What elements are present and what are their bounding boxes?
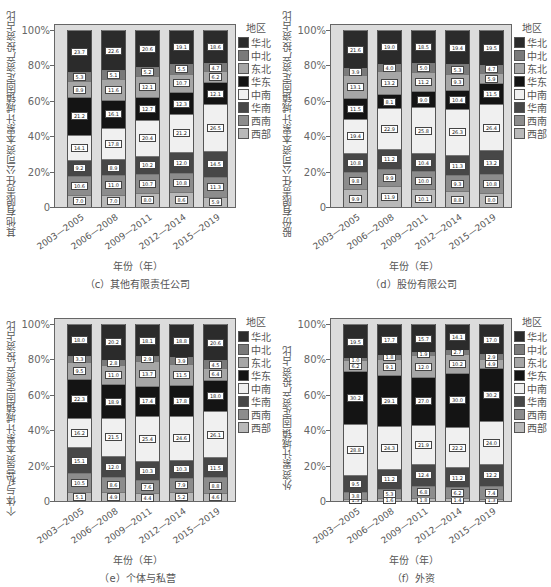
bar-segment-东北: 9.3 <box>446 74 469 90</box>
bar-segment-华北: 17.0 <box>480 324 503 354</box>
bar-segment-东北: 13.7 <box>136 361 159 385</box>
data-label: 4.6 <box>209 493 223 501</box>
bar-segment-华南: 12.0 <box>102 456 125 477</box>
bar-segment-华东: 11.5 <box>344 98 367 118</box>
y-tick-label: 100% <box>296 319 326 330</box>
plot-area: 1.33.89.528.830.26.21.019.51.65.311.224.… <box>330 318 512 502</box>
bar-segment-华南: 13.2 <box>480 150 503 173</box>
y-tick-label: 100% <box>20 25 50 36</box>
data-label: 10.8 <box>347 159 364 167</box>
bar-segment-华南: 10.3 <box>136 461 159 479</box>
data-label: 30.2 <box>483 391 500 399</box>
legend-swatch <box>238 344 249 355</box>
bar-segment-西部: 10.1 <box>412 189 435 207</box>
bar-segment-西南: 7.6 <box>136 480 159 493</box>
data-label: 10.5 <box>71 479 88 487</box>
bar-segment-西部: 7.0 <box>102 195 125 207</box>
data-label: 11.0 <box>105 181 122 189</box>
data-label: 9.8 <box>349 177 363 185</box>
bar-segment-中北: 1.8 <box>378 355 401 358</box>
bar-segment-西南: 10.8 <box>480 174 503 193</box>
legend-swatch <box>238 115 249 126</box>
bar-segment-西部: 11.9 <box>378 186 401 207</box>
bar-segment-中北: 2.9 <box>480 354 503 359</box>
legend-title: 地区 <box>246 20 271 35</box>
chart-panel-d: 股份有限责任公司资本累计城镇固定资产投资占比9.99.810.819.411.5… <box>276 0 551 293</box>
legend: 地区华北中北东北华东中南华南西南西部 <box>238 20 271 140</box>
bar-segment-中北: 3.9 <box>344 68 367 75</box>
bar-segment-西部: 1.8 <box>412 498 435 501</box>
data-label: 12.4 <box>415 471 432 479</box>
data-label: 8.0 <box>485 196 499 204</box>
bar-segment-东北: 11.5 <box>170 364 193 384</box>
data-label: 10.3 <box>173 465 190 473</box>
y-tick-label: 60% <box>296 95 326 106</box>
data-label: 22.2 <box>449 444 466 452</box>
stacked-bar: 4.98.612.021.518.911.02.820.2 <box>101 324 126 501</box>
data-label: 5.3 <box>451 66 465 74</box>
data-label: 5.3 <box>73 73 87 81</box>
bar-segment-华东: 22.3 <box>68 379 91 418</box>
plot-area: 7.010.69.214.121.28.95.323.77.011.08.917… <box>54 24 236 208</box>
bar-segment-华东: 18.0 <box>204 380 227 412</box>
bar-segment-华东: 10.4 <box>446 90 469 108</box>
bar-segment-中北: 5.3 <box>446 64 469 73</box>
stacked-bar: 7.010.69.214.121.28.95.323.7 <box>67 30 92 207</box>
data-label: 10.8 <box>173 179 190 187</box>
data-label: 19.0 <box>381 43 398 51</box>
y-tick-mark <box>50 466 54 467</box>
bar-segment-中南: 25.4 <box>136 416 159 461</box>
bar-segment-中南: 26.4 <box>480 104 503 151</box>
bar-segment-西部: 8.8 <box>446 191 469 207</box>
legend-swatch <box>514 422 525 433</box>
bar-segment-东北: 10.2 <box>446 354 469 372</box>
data-label: 3.8 <box>349 492 363 500</box>
bar-segment-东北: 6.2 <box>204 71 227 82</box>
data-label: 18.1 <box>139 337 156 345</box>
bar-segment-东北: 9.5 <box>68 362 91 379</box>
data-label: 18.6 <box>207 43 224 51</box>
y-tick-label: 40% <box>20 425 50 436</box>
data-label: 12.0 <box>415 363 432 371</box>
bar-segment-西部: 8.0 <box>136 193 159 207</box>
data-label: 18.5 <box>415 43 432 51</box>
y-tick-label: 20% <box>20 460 50 471</box>
bar-segment-西南: 3.8 <box>344 492 367 499</box>
data-label: 10.2 <box>449 360 466 368</box>
legend-swatch <box>514 128 525 139</box>
y-tick-mark <box>50 430 54 431</box>
stacked-bar: 5.110.515.116.222.39.53.318.0 <box>67 324 92 501</box>
bar-segment-中北: 5.5 <box>170 64 193 74</box>
data-label: 11.2 <box>381 475 398 483</box>
data-label: 6.8 <box>417 488 431 496</box>
data-label: 8.6 <box>175 196 189 204</box>
bar-segment-中北: 1.9 <box>412 352 435 355</box>
legend-swatch <box>238 422 249 433</box>
y-tick-mark <box>326 30 330 31</box>
stacked-bar: 5.911.314.526.512.16.24.718.6 <box>203 30 228 207</box>
bar-segment-华东: 21.2 <box>68 97 91 135</box>
data-label: 7.0 <box>73 197 87 205</box>
bar-segment-中北: 5.3 <box>68 72 91 81</box>
data-label: 9.5 <box>349 480 363 488</box>
bar-segment-西部: 4.4 <box>136 493 159 501</box>
data-label: 26.4 <box>483 124 500 132</box>
bar-segment-西部: 4.9 <box>102 492 125 501</box>
data-label: 18.0 <box>71 336 88 344</box>
data-label: 4.7 <box>485 65 499 73</box>
bar-segment-华南: 15.1 <box>68 447 91 474</box>
y-tick-mark <box>326 101 330 102</box>
data-label: 8.9 <box>73 86 87 94</box>
y-tick-mark <box>50 30 54 31</box>
stacked-bar: 1.37.412.224.030.24.92.917.0 <box>479 324 504 501</box>
bar-segment-华北: 19.0 <box>378 30 401 64</box>
bar-segment-华北: 14.1 <box>446 324 469 349</box>
y-tick-label: 40% <box>20 131 50 142</box>
y-tick-mark <box>50 172 54 173</box>
bar-segment-中南: 19.4 <box>344 119 367 153</box>
data-label: 24.3 <box>381 444 398 452</box>
bar-segment-西部: 5.1 <box>68 492 91 501</box>
data-label: 8.1 <box>383 98 397 106</box>
data-label: 12.1 <box>207 90 224 98</box>
y-tick-label: 80% <box>296 60 326 71</box>
